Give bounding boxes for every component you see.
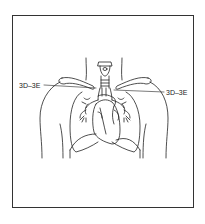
heart	[93, 100, 120, 144]
lungs	[70, 92, 140, 152]
torso-outline	[40, 82, 168, 158]
diaphragm	[70, 134, 140, 158]
chest-anatomy-drawing	[0, 0, 205, 224]
label-left-3d-3e: 3D–3E	[19, 82, 40, 89]
larynx	[98, 62, 112, 88]
neck-outline	[86, 58, 122, 80]
label-right-3d-3e: 3D–3E	[166, 89, 187, 96]
